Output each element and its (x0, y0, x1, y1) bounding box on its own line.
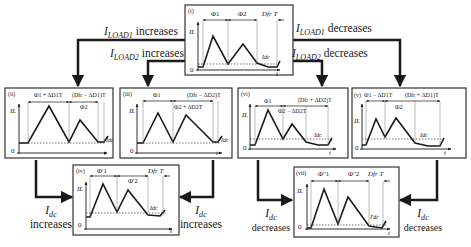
panel-v-seg2: (Dfr + ΔD1)T (405, 92, 439, 98)
panel-vii-seg3: Dfr T (368, 171, 383, 178)
label-idc-increases-left: Idcincreases (28, 205, 74, 231)
panel-iv-origin: 0 (78, 222, 82, 229)
panel-iii-xlabel: t (216, 150, 218, 157)
panel-iv-ylabel: IL (77, 186, 83, 193)
panel-v-origin: 0 (355, 145, 359, 152)
panel-iv-dc-label: Idc (150, 205, 158, 211)
panel-iv-seg1: Φ'1 (97, 168, 107, 175)
panel-iv-xlabel: t (170, 228, 172, 235)
arrow-idc-increases-left (36, 160, 72, 197)
panel-vi-seg2: (Dfr + ΔD2)T (298, 97, 332, 103)
panel-vii-xlabel: t (388, 230, 390, 237)
panel-vii-tag: (vii) (296, 170, 306, 176)
panel-ii-xlabel: t (104, 150, 106, 157)
panel-vi-xlabel: t (329, 150, 331, 157)
panel-ii-dc-label: Idc (106, 137, 114, 143)
panel-v-xlabel: t (444, 150, 446, 157)
panel-iii-tag: (iii) (123, 91, 132, 97)
panel-ii-ylabel: IL (10, 108, 16, 115)
panel-vi-seg1: Φ1 (264, 98, 271, 104)
panel-v-box (352, 88, 466, 158)
panel-i-seg1: Φ1 (211, 11, 220, 18)
arrow-idc-decreases-left (258, 160, 292, 200)
panel-vii-ylabel: IL (297, 188, 303, 195)
panel-i-origin: 0 (190, 67, 194, 74)
panel-iv-tag: (iv) (76, 168, 85, 174)
label-iload2-decreases: ILOAD2 decreases (292, 48, 368, 62)
arrow-iload2-increases (148, 61, 185, 86)
label-iload1-decreases: ILOAD1 decreases (296, 23, 372, 37)
panel-iii-seg2: (Dfr − ΔD2)T (187, 92, 221, 98)
panel-vi-seg-mid: Φ2 − ΔD2T (278, 108, 306, 114)
panel-ii-tag: (ii) (8, 91, 15, 97)
panel-v-dc-label: Idc (420, 132, 428, 138)
panel-vi-origin: 0 (243, 145, 247, 152)
panel-vi-ylabel: IL (242, 112, 248, 119)
panel-iii-origin: 0 (130, 148, 134, 155)
panel-iii-seg1: Φ1 (153, 92, 160, 98)
panel-ii-seg2: (Dfr − ΔD1)T (72, 92, 106, 98)
panel-ii-origin: 0 (11, 148, 15, 155)
panel-iv-seg3: Dfr T (148, 168, 163, 175)
label-idc-decreases-right: Idcdecreases (400, 208, 446, 234)
panel-i-tag: (i) (188, 8, 194, 14)
panel-vii-seg1: Φ''1 (318, 171, 329, 178)
label-idc-increases-right: Idcincreases (177, 205, 225, 231)
arrow-iload2-decreases (293, 61, 322, 86)
panel-iii-seg-mid: Φ2 + ΔD2T (174, 104, 202, 110)
label-iload2-increases: ILOAD2 increases (110, 48, 184, 62)
panel-v-seg-mid: Φ2 (395, 104, 402, 110)
panel-vi-dc-label: Idc (314, 132, 322, 138)
panel-v-seg1: Φ1 − ΔD1T (364, 92, 392, 98)
panel-vi-tag: (vi) (241, 91, 250, 97)
panel-i-seg3: Dfr T (262, 11, 277, 18)
panel-iii-dc-label: Idc (221, 137, 229, 143)
panel-i-ylabel: IL (189, 29, 195, 36)
panel-vii-dc-label: I'dc (370, 214, 379, 220)
panel-ii-seg1: Φ1 + ΔD1T (34, 92, 62, 98)
panel-i-dc-label: Idc (262, 54, 270, 60)
panel-i-xlabel: t (276, 71, 278, 78)
panel-iv-seg2: Φ'2 (128, 178, 138, 185)
panel-vii-origin: 0 (298, 224, 302, 231)
arrow-idc-increases-right (180, 160, 213, 197)
panel-vii-seg2: Φ''2 (348, 171, 359, 178)
panel-ii-seg-mid: Φ2 (80, 104, 87, 110)
panel-i-seg2: Φ2 (238, 11, 247, 18)
arrow-idc-decreases-right (400, 160, 437, 200)
label-idc-decreases-left: Idcdecreases (248, 208, 294, 234)
panel-v-ylabel: IL (354, 118, 360, 125)
label-iload1-increases: ILOAD1 increases (104, 26, 178, 40)
panel-iii-ylabel: IL (129, 108, 135, 115)
panel-v-tag: (v) (354, 92, 361, 98)
